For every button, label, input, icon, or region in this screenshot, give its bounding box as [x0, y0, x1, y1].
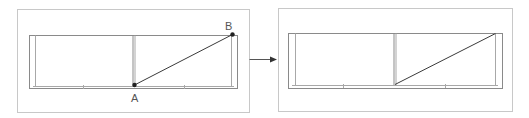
transition-arrow: [250, 57, 278, 63]
before-cabinet: [30, 36, 238, 90]
label-a: A: [131, 92, 139, 104]
diagonal-line-ab: [135, 35, 233, 86]
cabinet-diagram: A B: [0, 0, 529, 118]
after-panel: [279, 9, 513, 112]
after-cabinet: [289, 34, 503, 89]
point-a[interactable]: [132, 83, 136, 87]
arrow-right-icon: [270, 57, 277, 63]
label-b: B: [225, 20, 232, 32]
point-b[interactable]: [230, 32, 234, 36]
diagonal-line-result: [395, 34, 496, 85]
before-panel: A B: [18, 10, 250, 113]
